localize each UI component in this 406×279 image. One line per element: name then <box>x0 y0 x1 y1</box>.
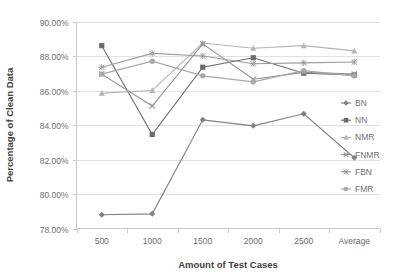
legend-label: NN <box>355 115 367 125</box>
y-tick-label: 84.00% <box>40 121 69 131</box>
series-line <box>102 46 355 135</box>
data-point-marker <box>250 61 256 67</box>
data-point-marker <box>99 212 105 218</box>
series-fnmr <box>99 41 357 108</box>
data-point-marker <box>99 43 104 48</box>
data-point-marker <box>344 187 349 192</box>
x-axis-tick-marks <box>78 229 381 233</box>
x-tick-label: 1500 <box>193 236 212 246</box>
series-line <box>102 61 355 82</box>
data-point-marker <box>150 103 155 108</box>
legend-label: FNMR <box>355 150 380 160</box>
legend-label: FBN <box>355 167 372 177</box>
legend-item-fbn[interactable]: FBN <box>341 167 372 177</box>
x-tick-label: 2500 <box>294 236 313 246</box>
x-axis-title: Amount of Test Cases <box>178 259 278 270</box>
x-tick-label: 1000 <box>143 236 162 246</box>
chart-container: 90.00%88.00%86.00%84.00%82.00%80.00%78.0… <box>0 0 406 279</box>
data-point-marker <box>343 100 348 105</box>
line-chart: 90.00%88.00%86.00%84.00%82.00%80.00%78.0… <box>0 0 406 279</box>
y-tick-label: 80.00% <box>40 190 69 200</box>
x-tick-label: Average <box>338 236 370 246</box>
data-point-marker <box>150 132 155 137</box>
data-point-marker <box>200 73 205 78</box>
data-point-marker <box>351 59 357 65</box>
x-axis-tick-labels: 5001000150020002500Average <box>95 236 371 246</box>
data-point-marker <box>150 59 155 64</box>
data-point-marker <box>301 60 307 66</box>
y-axis-tick-labels: 90.00%88.00%86.00%84.00%82.00%80.00%78.0… <box>40 18 69 235</box>
series-line <box>102 114 355 215</box>
series-line <box>102 53 355 67</box>
y-axis-title: Percentage of Clean Data <box>4 67 15 182</box>
y-tick-label: 86.00% <box>40 87 69 97</box>
data-series <box>99 40 358 218</box>
data-point-marker <box>99 72 104 77</box>
y-tick-label: 90.00% <box>40 18 69 28</box>
data-point-marker <box>99 64 105 70</box>
y-axis-tick-marks <box>73 23 77 230</box>
data-point-marker <box>344 118 349 123</box>
x-tick-label: 2000 <box>244 236 263 246</box>
data-point-marker <box>352 73 357 78</box>
data-point-marker <box>149 211 155 217</box>
legend-label: NMR <box>355 132 374 142</box>
data-point-marker <box>200 65 205 70</box>
series-line <box>102 44 355 106</box>
legend-label: FMR <box>355 184 373 194</box>
legend-item-bn[interactable]: BN <box>341 98 367 108</box>
data-point-marker <box>250 123 256 129</box>
series-fbn <box>99 50 358 70</box>
series-line <box>102 43 355 93</box>
x-tick-label: 500 <box>95 236 109 246</box>
legend-item-fmr[interactable]: FMR <box>341 184 373 194</box>
data-point-marker <box>301 68 306 73</box>
data-point-marker <box>200 53 206 59</box>
y-tick-label: 78.00% <box>40 225 69 235</box>
series-bn <box>99 111 358 218</box>
y-tick-label: 82.00% <box>40 156 69 166</box>
data-point-marker <box>251 55 256 60</box>
y-tick-label: 88.00% <box>40 52 69 62</box>
legend-item-nmr[interactable]: NMR <box>341 132 374 142</box>
series-nmr <box>99 40 358 96</box>
legend-label: BN <box>355 98 367 108</box>
data-point-marker <box>149 50 155 56</box>
chart-legend: BNNNNMRFNMRFBNFMR <box>341 98 380 194</box>
legend-item-nn[interactable]: NN <box>341 115 367 125</box>
data-point-marker <box>251 79 256 84</box>
data-point-marker <box>200 117 206 123</box>
data-point-marker <box>343 169 349 175</box>
